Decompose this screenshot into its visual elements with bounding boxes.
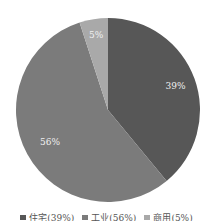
chart-legend: 住宅(39%) 工业(56%) 商用(5%) — [0, 211, 213, 221]
legend-item: 工业(56%) — [82, 211, 136, 221]
slice-value-label: 56% — [40, 137, 60, 147]
pie-chart: 39%56%5% — [0, 0, 213, 205]
legend-label: 商用(5%) — [153, 211, 192, 222]
legend-item: 住宅(39%) — [20, 211, 74, 221]
legend-label: 工业(56%) — [91, 211, 136, 222]
legend-swatch-icon — [144, 215, 150, 220]
legend-swatch-icon — [20, 215, 26, 220]
legend-label: 住宅(39%) — [29, 211, 74, 222]
slice-value-label: 5% — [89, 30, 104, 40]
legend-swatch-icon — [82, 215, 88, 220]
legend-item: 商用(5%) — [144, 211, 192, 221]
slice-value-label: 39% — [166, 81, 186, 91]
